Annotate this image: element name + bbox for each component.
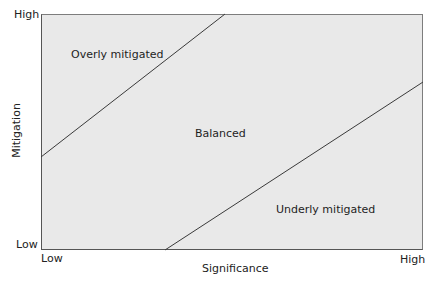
y-axis-title: Mitigation (10, 101, 23, 161)
x-axis-high-label: High (400, 253, 425, 266)
lower-boundary-line (165, 82, 423, 250)
y-axis-low-label: Low (16, 238, 38, 251)
y-axis-high-label: High (14, 8, 39, 21)
region-overly-mitigated: Overly mitigated (71, 48, 163, 61)
x-axis-low-label: Low (41, 252, 63, 265)
region-underly-mitigated: Underly mitigated (276, 203, 375, 216)
region-balanced: Balanced (195, 127, 246, 140)
boundary-lines (0, 0, 437, 283)
x-axis-title: Significance (202, 262, 269, 275)
